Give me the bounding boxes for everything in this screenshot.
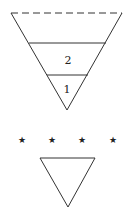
lower-triangle [40, 158, 95, 207]
star-icon: ★ [78, 135, 86, 145]
left-edge [11, 13, 67, 110]
diagram-canvas: 2 1 ★ ★ ★ ★ [0, 0, 128, 218]
right-edge [67, 13, 122, 110]
layer-1-label: 1 [64, 83, 71, 96]
star-icon: ★ [48, 135, 56, 145]
upper-triangle: 2 1 [11, 13, 122, 110]
layer-2-label: 2 [65, 54, 72, 67]
star-separator: ★ ★ ★ ★ [18, 135, 117, 145]
star-icon: ★ [18, 135, 26, 145]
star-icon: ★ [109, 135, 117, 145]
